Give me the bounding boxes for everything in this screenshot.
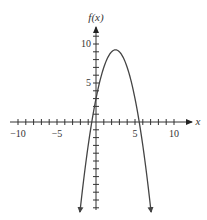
x-tick-label-5: 5 [133, 128, 138, 139]
x-tick-label-neg5: −5 [52, 128, 63, 139]
x-tick-label-10: 10 [169, 128, 179, 139]
x-axis-label: x [195, 115, 201, 127]
function-graph: −10 −5 5 10 10 5 f(x) x [0, 0, 207, 220]
y-axis-label: f(x) [88, 11, 104, 24]
x-tick-label-neg10: −10 [10, 128, 26, 139]
y-tick-label-5: 5 [86, 77, 91, 88]
y-tick-label-10: 10 [81, 38, 91, 49]
parabola-curve [80, 50, 151, 212]
